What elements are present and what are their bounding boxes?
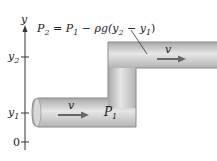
tick-label-0: 0: [13, 137, 20, 148]
p1-sub: 1: [112, 112, 117, 121]
eq-minus: −: [124, 22, 140, 35]
point-label-p1: P1: [104, 106, 117, 121]
tick-label-y1: y1: [8, 107, 19, 121]
axis-label-y: y: [21, 14, 27, 25]
velocity-label-lower: v: [68, 100, 74, 111]
eq-close: ): [151, 22, 155, 35]
velocity-label-upper: v: [165, 44, 171, 55]
y-axis: [21, 25, 29, 150]
pressure-equation: P2 = P1 − ρg(y2 − y1): [37, 23, 155, 37]
eq-rho-g: − ρg(: [78, 22, 112, 35]
tick-y2-sub: 2: [14, 56, 19, 65]
eq-p1: P: [66, 22, 73, 35]
p1-main: P: [104, 105, 112, 119]
tick-y1-sub: 1: [14, 112, 19, 121]
eq-equals: =: [50, 22, 66, 35]
tick-label-y2: y2: [8, 51, 19, 65]
